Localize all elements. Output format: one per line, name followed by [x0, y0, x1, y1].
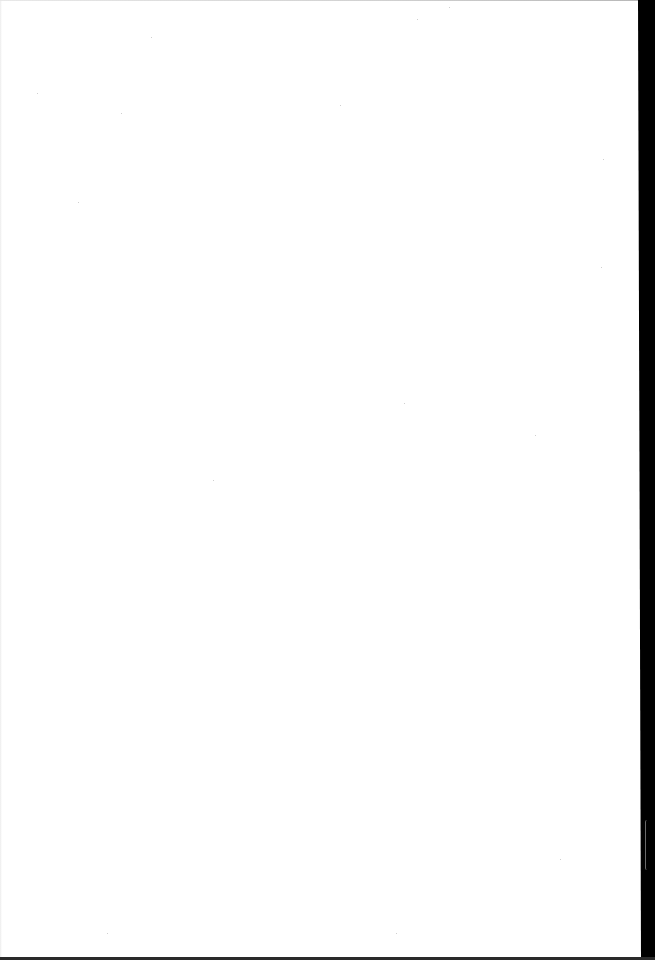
dust-speck — [404, 403, 405, 404]
dust-speck — [121, 113, 122, 114]
dust-speck — [603, 159, 604, 160]
scanned-page-view — [0, 0, 655, 960]
dust-speck — [151, 37, 152, 38]
dust-speck — [396, 933, 397, 934]
dust-speck — [107, 933, 108, 934]
dust-speck — [37, 93, 38, 94]
page-edge-curl — [645, 820, 649, 870]
dust-speck — [213, 480, 214, 481]
blank-paper-page — [0, 0, 641, 958]
dust-speck — [601, 267, 602, 268]
left-edge-shade — [0, 0, 2, 958]
page-corner-fold — [646, 922, 655, 937]
dust-speck — [535, 435, 536, 436]
dust-speck — [78, 202, 79, 203]
top-page-edge — [0, 0, 640, 1]
dust-speck — [449, 7, 450, 8]
dust-speck — [417, 19, 418, 20]
dust-speck — [560, 859, 561, 860]
dust-speck — [340, 105, 341, 106]
